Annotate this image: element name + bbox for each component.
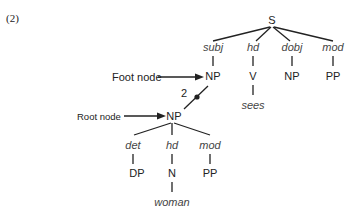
lexeme-woman: woman	[154, 196, 189, 208]
substitution-index: 2	[181, 87, 187, 99]
relation-hd-2: hd	[166, 139, 179, 151]
foot-node-label: Foot node	[112, 71, 162, 83]
relation-det: det	[125, 139, 141, 151]
node-np-dobj: NP	[284, 70, 299, 82]
relation-dobj: dobj	[282, 41, 303, 53]
substitution-dot-icon	[194, 94, 199, 99]
edge-np-det	[134, 123, 171, 135]
example-number: (2)	[6, 12, 19, 25]
root-node-arrowhead-icon	[157, 113, 166, 120]
node-dp: DP	[129, 167, 144, 179]
node-np-foot: NP	[205, 70, 220, 82]
relation-hd: hd	[247, 41, 260, 53]
edge-np-mod	[174, 123, 210, 135]
node-pp-2: PP	[203, 167, 218, 179]
node-pp: PP	[326, 70, 341, 82]
relation-subj: subj	[203, 41, 224, 53]
relation-mod-2: mod	[199, 139, 221, 151]
node-n: N	[168, 167, 176, 179]
lexeme-sees: sees	[241, 99, 265, 111]
relation-mod: mod	[322, 41, 344, 53]
edge-s-subj	[213, 27, 270, 41]
node-np-root: NP	[166, 110, 181, 122]
tree-diagram: (2) S subj hd dobj mod NP V NP PP sees F…	[0, 0, 350, 213]
root-node-label: Root node	[77, 111, 121, 122]
node-v: V	[249, 70, 257, 82]
foot-node-arrowhead-icon	[195, 74, 204, 81]
edge-s-mod	[274, 27, 333, 41]
node-s: S	[268, 14, 275, 26]
